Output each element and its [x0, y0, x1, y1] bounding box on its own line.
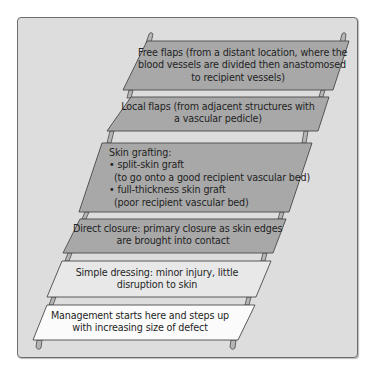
text-line: Direct closure: primary closure as skin …: [73, 223, 273, 235]
text-line: disruption to skin: [57, 279, 257, 291]
text-line: to recipient vessels): [138, 72, 338, 84]
step-simple-dressing-text: Simple dressing: minor injury, little di…: [57, 267, 257, 292]
step-skin-grafting-text: Skin grafting: • split-skin graft (to go…: [109, 147, 310, 209]
step-local-flaps-text: Local flaps (from adjacent structures wi…: [118, 101, 318, 126]
step-management-start-text: Management starts here and steps up with…: [40, 310, 240, 335]
text-line: Simple dressing: minor injury, little: [57, 267, 257, 279]
rail-right-bottom-hook: [230, 340, 236, 349]
text-line: with increasing size of defect: [40, 322, 240, 334]
text-line: Management starts here and steps up: [40, 310, 240, 322]
text-line: Local flaps (from adjacent structures wi…: [118, 101, 318, 113]
rail-left-bottom-hook: [36, 340, 42, 349]
text-line: blood vessels are divided then anastomos…: [138, 59, 338, 71]
step-direct-closure-text: Direct closure: primary closure as skin …: [73, 223, 273, 248]
bullet-item: • full-thickness skin graft: [109, 184, 310, 196]
bullet-note: (to go onto a good recipient vascular be…: [109, 172, 310, 184]
text-heading: Skin grafting:: [109, 147, 310, 159]
text-line: Free flaps (from a distant location, whe…: [138, 47, 338, 59]
text-line: a vascular pedicle): [118, 113, 318, 125]
bullet-note: (poor recipient vascular bed): [109, 197, 310, 209]
step-free-flaps-text: Free flaps (from a distant location, whe…: [138, 47, 338, 84]
text-line: are brought into contact: [73, 235, 273, 247]
bullet-item: • split-skin graft: [109, 159, 310, 171]
